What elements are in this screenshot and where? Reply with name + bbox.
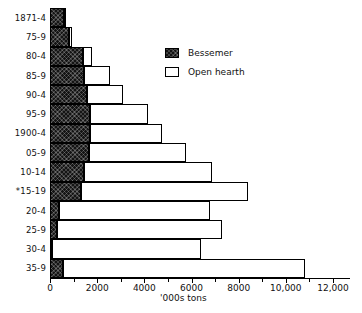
x-minor-tick [121, 279, 122, 282]
open-hearth-bar [69, 27, 73, 46]
open-hearth-bar [64, 8, 66, 27]
bessemer-bar [50, 259, 63, 278]
bessemer-swatch [165, 48, 179, 58]
x-tick-label: 4000 [133, 283, 156, 293]
y-axis-label: 1871-4 [0, 13, 46, 23]
bar-row [50, 239, 333, 258]
open-hearth-bar [89, 143, 186, 162]
bar-row [50, 124, 333, 143]
open-hearth-bar [57, 220, 222, 239]
bessemer-bar [50, 85, 87, 104]
y-axis-label: 75-9 [0, 32, 46, 42]
y-axis-label: 1900-4 [0, 128, 46, 138]
bar-row [50, 143, 333, 162]
legend: BessemerOpen hearth [165, 48, 245, 86]
open-hearth-bar [81, 182, 248, 201]
legend-label: Bessemer [188, 48, 233, 58]
x-minor-tick [215, 279, 216, 282]
y-axis-label: 30-4 [0, 244, 46, 254]
y-axis-label: 35-9 [0, 263, 46, 273]
bar-row [50, 8, 333, 27]
open-hearth-bar [84, 162, 211, 181]
steel-production-chart: 1871-475-980-485-990-495-91900-405-910-1… [0, 0, 362, 313]
y-axis-label: *15-19 [0, 186, 46, 196]
y-axis-label: 95-9 [0, 109, 46, 119]
legend-item: Bessemer [165, 48, 245, 58]
legend-item: Open hearth [165, 67, 245, 77]
x-minor-tick [74, 279, 75, 282]
bessemer-bar [50, 66, 84, 85]
bar-row [50, 27, 333, 46]
bessemer-bar [50, 182, 81, 201]
x-axis-title: '000s tons [160, 293, 207, 303]
open-hearth-bar [83, 47, 92, 66]
bessemer-bar [50, 47, 83, 66]
x-tick-label: 12,000 [317, 283, 349, 293]
open-hearth-bar [84, 66, 110, 85]
bar-row [50, 182, 333, 201]
bessemer-bar [50, 201, 59, 220]
open-hearth-bar [90, 104, 148, 123]
y-axis-label: 90-4 [0, 90, 46, 100]
open-hearth-bar [90, 124, 162, 143]
y-axis-label: 10-14 [0, 167, 46, 177]
x-axis-line [50, 278, 350, 279]
bar-row [50, 162, 333, 181]
bessemer-bar [50, 104, 90, 123]
x-tick-label: 2000 [86, 283, 109, 293]
bar-row [50, 220, 333, 239]
open-hearth-bar [87, 85, 124, 104]
y-axis-label: 20-4 [0, 206, 46, 216]
bessemer-bar [50, 220, 57, 239]
bar-row [50, 104, 333, 123]
y-axis-label: 85-9 [0, 71, 46, 81]
x-tick-label: 0 [47, 283, 53, 293]
x-tick-label: 8000 [227, 283, 250, 293]
y-axis-label: 25-9 [0, 225, 46, 235]
bar-row [50, 259, 333, 278]
x-tick-label: 10,000 [270, 283, 302, 293]
bar-row [50, 201, 333, 220]
open-hearth-bar [52, 239, 201, 258]
bar-row [50, 85, 333, 104]
y-axis-label: 80-4 [0, 51, 46, 61]
open-hearth-bar [63, 259, 305, 278]
y-axis-label: 05-9 [0, 148, 46, 158]
bessemer-bar [50, 27, 69, 46]
bessemer-bar [50, 162, 84, 181]
x-minor-tick [168, 279, 169, 282]
bessemer-bar [50, 124, 90, 143]
open-hearth-bar [59, 201, 210, 220]
bessemer-bar [50, 143, 89, 162]
legend-label: Open hearth [188, 67, 245, 77]
x-tick-label: 6000 [180, 283, 203, 293]
x-minor-tick [309, 279, 310, 282]
x-minor-tick [262, 279, 263, 282]
bessemer-bar [50, 8, 64, 27]
open-hearth-swatch [165, 67, 179, 77]
